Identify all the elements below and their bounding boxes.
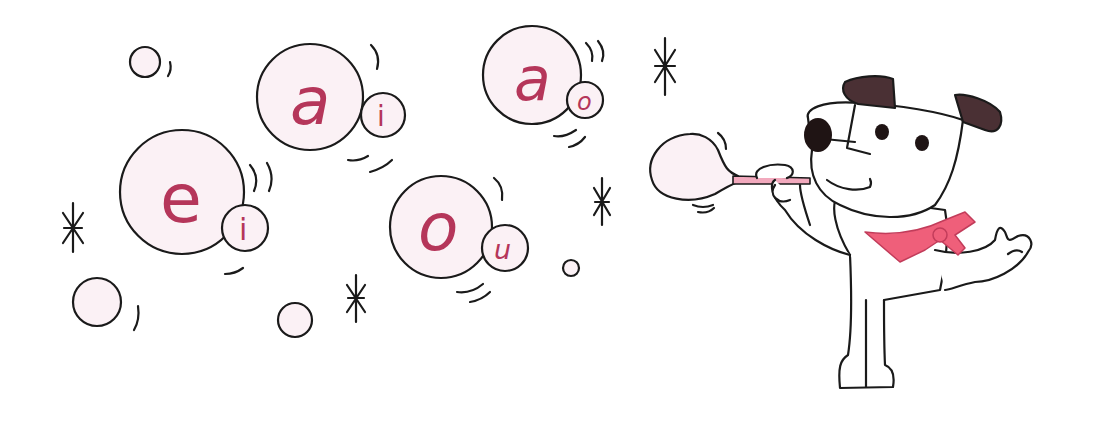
letter-u: u — [494, 234, 511, 265]
letter-a: a — [290, 63, 330, 140]
letter-i: i — [377, 100, 385, 133]
letter-e: e — [160, 159, 202, 238]
sparkle-icon — [347, 275, 365, 322]
sparkle-icon — [63, 203, 83, 252]
bubbles-dog-illustration: e i a i a o o u — [0, 0, 1095, 425]
small-bubble — [73, 278, 121, 326]
illustration-canvas: e i a i a o o u — [0, 0, 1095, 425]
small-bubble — [278, 303, 312, 337]
small-bubble — [130, 47, 160, 77]
sparkle-icon — [594, 178, 610, 225]
sparkle-icon — [655, 38, 675, 95]
letter-o: o — [418, 189, 458, 266]
letter-a: a — [514, 44, 551, 114]
letter-i: i — [239, 212, 247, 247]
letter-o: o — [577, 88, 592, 116]
growing-bubble — [650, 133, 738, 213]
small-bubble — [563, 260, 579, 276]
dog-character — [756, 76, 1031, 388]
